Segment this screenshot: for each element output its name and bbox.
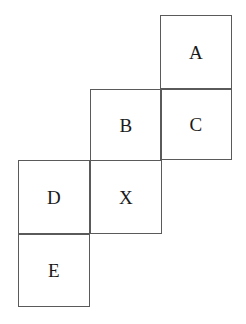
square-label-b: B (119, 116, 132, 135)
square-label-c: C (189, 115, 202, 134)
squares-diagram: A B C D X E (0, 0, 246, 324)
square-label-a: A (189, 43, 203, 62)
square-label-e: E (48, 261, 60, 280)
square-label-d: D (47, 188, 61, 207)
square-label-x: X (119, 188, 133, 207)
square-cell-b[interactable]: B (90, 89, 162, 161)
square-cell-d[interactable]: D (18, 160, 90, 234)
square-cell-x[interactable]: X (90, 160, 162, 234)
square-cell-c[interactable]: C (160, 89, 232, 160)
square-cell-e[interactable]: E (18, 234, 90, 307)
square-cell-a[interactable]: A (160, 15, 232, 89)
